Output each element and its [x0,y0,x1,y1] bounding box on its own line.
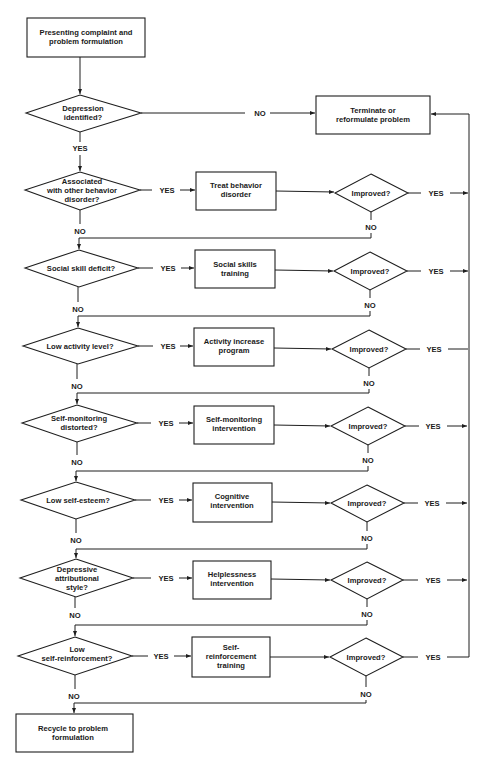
treatment-label: reinforcement [206,652,257,661]
decision-no-label: NO [74,227,85,236]
improved-yes-label: YES [424,499,439,508]
decision-yes-label: YES [160,342,175,351]
improved-no-label: NO [360,690,371,699]
depression-treatment-flowchart: Presenting complaint and problem formula… [0,0,484,772]
row-self-reinforcement: Low self-reinforcement? YES Self- reinfo… [18,637,469,713]
treatment-label: Self-monitoring [206,415,262,424]
improved-yes-label: YES [426,345,441,354]
treatment-label: Cognitive [215,492,250,501]
row-activity-level: Low activity level? YES Activity increas… [23,328,468,404]
decision-label: with other behavior [46,186,117,195]
improved-label: Improved? [349,422,388,431]
depression-label-line2: identified? [64,113,103,122]
decision-yes-label: YES [153,652,168,661]
decision-label: Social skill deficit? [47,264,116,273]
treatment-label: training [221,269,249,278]
recycle-box: Recycle to problem formulation [16,714,133,752]
decision-label: Depressive [57,565,98,574]
decision-no-label: NO [68,692,79,701]
improved-label: Improved? [348,499,387,508]
decision-no-label: NO [71,458,82,467]
treatment-label: training [217,661,245,670]
row-behavior-disorder: Associated with other behavior disorder?… [25,172,468,249]
recycle-label-line1: Recycle to problem [38,724,108,733]
terminate-label-line1: Terminate or [350,106,395,115]
terminate-label-line2: reformulate problem [336,115,410,124]
treatment-label: intervention [210,501,254,510]
decision-yes-label: YES [158,496,173,505]
improved-yes-label: YES [425,653,440,662]
improved-no-label: NO [363,379,374,388]
depression-no-label: NO [254,109,265,118]
improved-yes-label: YES [428,267,443,276]
improved-yes-label: YES [428,189,443,198]
decision-label: attributional [55,574,99,583]
recycle-label-line2: formulation [52,733,94,742]
depression-yes-label: YES [72,144,87,153]
decision-no-label: NO [69,611,80,620]
decision-label: Associated [62,177,103,186]
treatment-label: Activity increase [204,337,264,346]
improved-yes-label: YES [425,576,440,585]
decision-label: Low [69,645,84,654]
decision-label: self-reinforcement? [42,654,113,663]
treatment-label: Social skills [213,260,256,269]
terminate-box: Terminate or reformulate problem [316,96,430,134]
improved-label: Improved? [351,267,390,276]
depression-label-line1: Depression [62,104,104,113]
improved-no-label: NO [362,456,373,465]
row-attributional-style: Depressive attributional style? YES Help… [20,559,467,636]
decision-label: style? [66,583,88,592]
decision-label: distorted? [60,423,97,432]
improved-label: Improved? [352,189,391,198]
depression-identified-decision: Depression identified? [26,95,141,132]
improved-yes-label: YES [425,422,440,431]
decision-label: Self-monitoring [51,414,107,423]
decision-yes-label: YES [158,419,173,428]
improved-label: Improved? [350,345,389,354]
decision-no-label: NO [72,305,83,314]
row-self-esteem: Low self-esteem? YES Cognitive intervent… [21,482,467,558]
improved-no-label: NO [361,534,372,543]
treatment-label: Treat behavior [210,181,262,190]
treatment-label: intervention [210,579,254,588]
treatment-label: disorder [221,190,251,199]
decision-yes-label: YES [159,186,174,195]
start-label-line2: problem formulation [49,37,123,46]
decision-yes-label: YES [158,574,173,583]
start-box: Presenting complaint and problem formula… [27,18,145,57]
decision-label: Low activity level? [46,342,113,351]
improved-no-label: NO [365,223,376,232]
improved-label: Improved? [347,653,386,662]
treatment-label: program [219,346,250,355]
improved-no-label: NO [361,610,372,619]
treatment-label: Self- [223,643,240,652]
decision-label: disorder? [64,195,99,204]
treatment-label: Helplessness [208,570,257,579]
decision-no-label: NO [71,382,82,391]
row-social-skills: Social skill deficit? YES Social skills … [25,250,468,327]
decision-label: Low self-esteem? [46,496,110,505]
improved-no-label: NO [364,301,375,310]
decision-no-label: NO [70,536,81,545]
treatment-label: intervention [212,424,256,433]
decision-yes-label: YES [160,264,175,273]
improved-label: Improved? [348,576,387,585]
start-label-line1: Presenting complaint and [40,28,133,37]
row-self-monitoring: Self-monitoring distorted? YES Self-moni… [22,405,467,481]
